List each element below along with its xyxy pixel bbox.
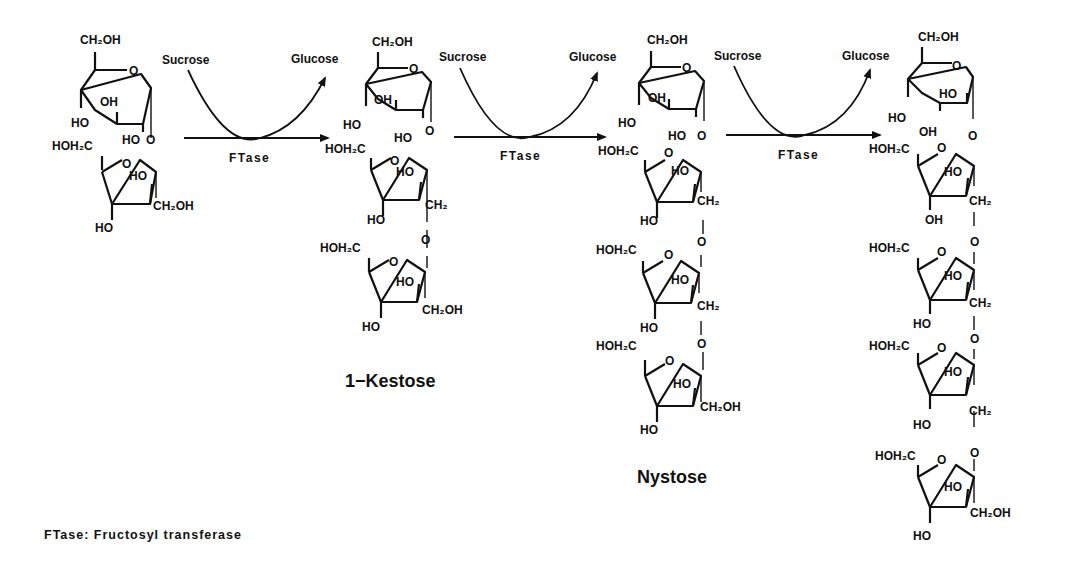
svg-text:HO: HO — [122, 133, 140, 147]
svg-text:CH₂OH: CH₂OH — [647, 33, 688, 47]
svg-text:HOH₂C: HOH₂C — [869, 142, 910, 156]
svg-text:O: O — [937, 453, 946, 467]
sucrose-label: Sucrose — [439, 50, 487, 64]
svg-text:HO: HO — [673, 377, 691, 391]
svg-text:O: O — [389, 255, 398, 269]
molecule-fructofuranosyl-nystose: CH₂OH O HO HO OH O HOH₂C O HO CH₂ OH O H… — [869, 30, 1011, 543]
svg-text:HO: HO — [71, 116, 89, 130]
svg-text:O: O — [146, 133, 155, 147]
svg-text:CH₂: CH₂ — [969, 404, 992, 418]
svg-text:HOH₂C: HOH₂C — [875, 449, 916, 463]
svg-text:CH₂OH: CH₂OH — [970, 506, 1011, 520]
svg-text:O: O — [421, 233, 430, 247]
svg-text:HOH₂C: HOH₂C — [869, 339, 910, 353]
svg-text:CH₂: CH₂ — [697, 299, 720, 313]
product-name-1-kestose: 1−Kestose — [345, 371, 436, 391]
svg-text:CH₂OH: CH₂OH — [700, 400, 741, 414]
svg-text:HO: HO — [913, 418, 931, 432]
svg-text:HO: HO — [394, 131, 412, 145]
svg-text:CH₂OH: CH₂OH — [422, 303, 463, 317]
svg-text:OH: OH — [100, 95, 118, 109]
svg-text:HO: HO — [129, 169, 147, 183]
svg-text:O: O — [409, 62, 418, 76]
svg-text:O: O — [664, 146, 673, 160]
svg-text:HO: HO — [944, 365, 962, 379]
svg-text:CH₂: CH₂ — [969, 296, 992, 310]
svg-text:O: O — [970, 446, 979, 460]
svg-text:OH: OH — [374, 93, 392, 107]
svg-text:HO: HO — [396, 275, 414, 289]
svg-text:HOH₂C: HOH₂C — [598, 144, 639, 158]
svg-text:O: O — [665, 354, 674, 368]
svg-text:O: O — [970, 235, 979, 249]
svg-text:O: O — [968, 129, 977, 143]
sucrose-label: Sucrose — [714, 49, 762, 63]
svg-text:CH₂OH: CH₂OH — [372, 35, 413, 49]
svg-text:OH: OH — [925, 213, 943, 227]
glucose-label: Glucose — [842, 49, 890, 63]
svg-text:HO: HO — [939, 87, 957, 101]
svg-text:CH₂: CH₂ — [425, 198, 448, 212]
svg-text:CH₂OH: CH₂OH — [918, 30, 959, 44]
svg-text:HOH₂C: HOH₂C — [596, 339, 637, 353]
svg-text:CH₂: CH₂ — [697, 194, 720, 208]
reaction-arrow-3: Sucrose Glucose FTase — [714, 49, 890, 162]
svg-text:HO: HO — [343, 118, 361, 132]
svg-text:HOH₂C: HOH₂C — [52, 139, 93, 153]
svg-text:O: O — [970, 332, 979, 346]
svg-text:HOH₂C: HOH₂C — [320, 241, 361, 255]
svg-text:O: O — [682, 61, 691, 75]
glucose-label: Glucose — [569, 50, 617, 64]
svg-text:O: O — [952, 59, 961, 73]
svg-text:HO: HO — [640, 423, 658, 437]
svg-text:HO: HO — [362, 320, 380, 334]
svg-text:HO: HO — [396, 165, 414, 179]
ftase-label: FTase — [229, 151, 270, 165]
svg-text:O: O — [664, 248, 673, 262]
footnote-ftase-definition: FTase: Fructosyl transferase — [44, 528, 242, 542]
reaction-arrow-2: Sucrose Glucose FTase — [439, 50, 617, 163]
svg-text:O: O — [425, 124, 434, 138]
svg-text:O: O — [937, 245, 946, 259]
svg-text:HOH₂C: HOH₂C — [869, 241, 910, 255]
product-name-nystose: Nystose — [637, 467, 707, 487]
svg-text:HO: HO — [618, 116, 636, 130]
svg-text:HOH₂C: HOH₂C — [596, 243, 637, 257]
svg-text:HOH₂C: HOH₂C — [325, 142, 366, 156]
svg-text:HO: HO — [913, 317, 931, 331]
svg-text:O: O — [937, 341, 946, 355]
svg-text:OH: OH — [648, 91, 666, 105]
molecule-1-kestose: CH₂OH O OH HO HO O HOH₂C O HO CH₂ HO O H… — [320, 35, 463, 391]
svg-text:HO: HO — [367, 213, 385, 227]
svg-text:HO: HO — [640, 214, 658, 228]
sucrose-label: Sucrose — [162, 53, 210, 67]
svg-text:O: O — [937, 141, 946, 155]
molecule-nystose: CH₂OH O OH HO HO O HOH₂C O HO CH₂ HO O H… — [596, 33, 741, 487]
svg-text:HO: HO — [944, 269, 962, 283]
svg-text:HO: HO — [944, 480, 962, 494]
ftase-label: FTase — [778, 148, 819, 162]
svg-text:O: O — [697, 235, 706, 249]
reaction-arrow-1: Sucrose Glucose FTase — [162, 52, 339, 165]
svg-text:HO: HO — [671, 273, 689, 287]
svg-text:OH: OH — [919, 125, 937, 139]
svg-text:CH₂OH: CH₂OH — [153, 199, 194, 213]
ftase-label: FTase — [500, 149, 541, 163]
svg-text:HO: HO — [95, 221, 113, 235]
svg-text:O: O — [697, 129, 706, 143]
svg-text:HO: HO — [944, 165, 962, 179]
svg-text:CH₂: CH₂ — [969, 194, 992, 208]
svg-text:O: O — [697, 337, 706, 351]
ch2oh-label: CH₂OH — [80, 33, 121, 47]
svg-text:HO: HO — [888, 111, 906, 125]
svg-text:HO: HO — [668, 129, 686, 143]
svg-text:O: O — [129, 64, 138, 78]
glucose-label: Glucose — [291, 52, 339, 66]
svg-text:HO: HO — [640, 321, 658, 335]
svg-text:HO: HO — [671, 164, 689, 178]
svg-text:HO: HO — [913, 529, 931, 543]
reaction-diagram: CH₂OH O OH HO HO O HOH₂C O HO CH₂OH HO — [0, 0, 1070, 568]
